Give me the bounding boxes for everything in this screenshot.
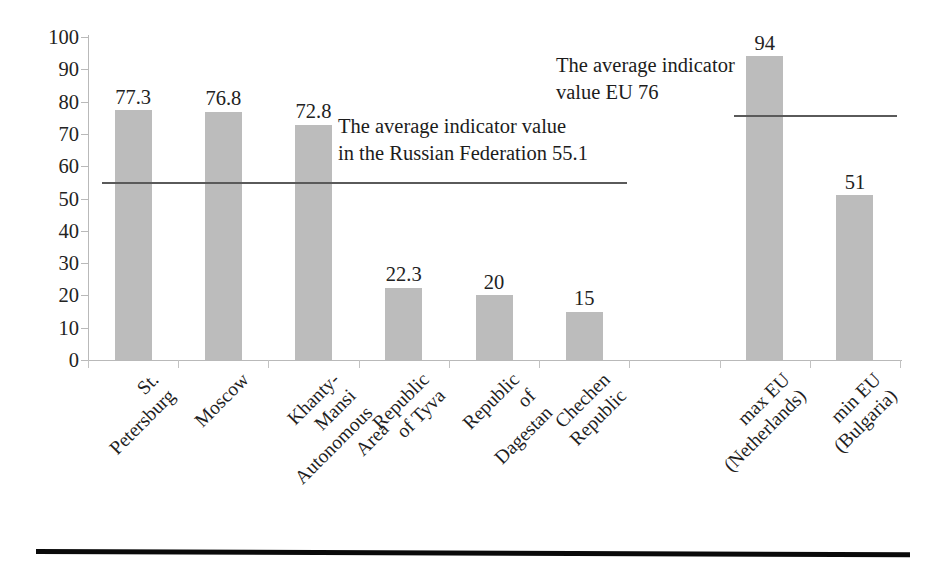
y-axis-tick [81,166,88,167]
x-axis-category-label-text: max EU (Netherlands) [703,368,812,477]
y-axis-tick-label: 50 [59,188,80,209]
bar[interactable]: 94 [746,56,783,360]
russian-federation-average-line [102,182,626,184]
bar-value-label: 94 [754,33,775,54]
eu-average-annotation: The average indicator value EU 76 [556,52,735,106]
x-axis-tick [900,360,901,368]
x-axis-tick [268,360,269,368]
bottom-divider-rule [36,549,910,557]
x-axis-category-label-text: Khanty-Mansi Autonomous Area [256,368,393,505]
y-axis-tick [81,328,88,329]
x-axis-tick [720,360,721,368]
bar[interactable]: 72.8 [295,125,332,360]
bar-value-label: 72.8 [296,101,332,122]
y-axis-tick [81,37,88,38]
x-axis-category-label-text: St. Petersburg [88,368,180,460]
y-axis-tick-label: 0 [69,350,79,371]
bar[interactable]: 76.8 [205,112,242,360]
x-axis-tick [539,360,540,368]
x-axis-tick [449,360,450,368]
russian-federation-average-annotation: The average indicator value in the Russi… [338,113,588,167]
bar-value-label: 20 [484,272,505,293]
y-axis-tick-label: 10 [59,317,80,338]
y-axis-tick [81,231,88,232]
y-axis-tick-label: 30 [59,253,80,274]
y-axis-tick [81,295,88,296]
bar-value-label: 22.3 [386,264,422,285]
bar[interactable]: 22.3 [385,288,422,360]
y-axis-tick [81,69,88,70]
y-axis-tick [81,360,88,361]
bar[interactable]: 51 [836,195,873,360]
bar-value-label: 77.3 [115,87,151,108]
x-axis-tick [88,360,89,368]
eu-average-line [734,115,897,117]
bar-value-label: 51 [845,172,866,193]
y-axis-tick [81,199,88,200]
y-axis-tick-label: 70 [59,124,80,145]
y-axis-tick-label: 20 [59,285,80,306]
x-axis-tick [810,360,811,368]
y-axis-tick-label: 60 [59,156,80,177]
x-axis-tick [359,360,360,368]
x-axis-tick [629,360,630,368]
bar[interactable]: 15 [566,312,603,360]
y-axis-tick-label: 100 [48,27,79,48]
y-axis-tick [81,263,88,264]
bar-value-label: 76.8 [205,88,241,109]
y-axis-tick-label: 80 [59,91,80,112]
x-axis-line [88,360,902,361]
bar[interactable]: 77.3 [115,110,152,360]
y-axis-tick-label: 40 [59,221,80,242]
x-axis-category-label-text: Republic of Dagestan [457,368,558,469]
y-axis-tick-label: 90 [59,59,80,80]
bar-value-label: 15 [574,288,595,309]
x-axis-category-label-text: Chechen Republic [548,368,631,451]
x-axis-category-label-text: Moscow [190,368,254,432]
bar-chart-figure: 1009080706050403020100 77.376.872.822.32… [0,0,945,573]
bar[interactable]: 20 [476,295,513,360]
x-axis-tick [178,360,179,368]
bars-layer: 77.376.872.822.320159451 [88,37,900,360]
y-axis-tick [81,102,88,103]
x-axis-category-label-text: min EU (Bulgaria) [812,368,902,458]
y-axis-tick [81,134,88,135]
